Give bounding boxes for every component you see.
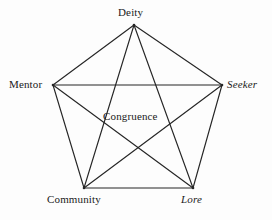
graph-edge-deity-community <box>84 25 134 188</box>
center-label-congruence: Congruence <box>103 110 158 123</box>
graph-vertex-lore <box>192 187 195 190</box>
graph-vertex-seeker <box>221 84 224 87</box>
graph-vertex-mentor <box>52 84 55 87</box>
node-label-deity: Deity <box>118 6 143 19</box>
graph-edge-mentor-community <box>53 85 84 188</box>
graph-edge-deity-mentor <box>53 25 134 85</box>
pentagram-diagram: Deity Mentor Seeker Community Lore Congr… <box>0 0 272 220</box>
graph-vertex-deity <box>133 24 136 27</box>
node-label-community: Community <box>47 193 101 206</box>
node-label-seeker: Seeker <box>227 78 257 91</box>
node-label-mentor: Mentor <box>9 78 42 91</box>
node-label-lore: Lore <box>181 193 202 206</box>
graph-edge-seeker-community <box>84 85 222 188</box>
graph-edge-deity-lore <box>134 25 193 188</box>
graph-edge-seeker-lore <box>193 85 222 188</box>
graph-edge-deity-seeker <box>134 25 222 85</box>
graph-edge-mentor-lore <box>53 85 193 188</box>
graph-vertex-community <box>83 187 86 190</box>
